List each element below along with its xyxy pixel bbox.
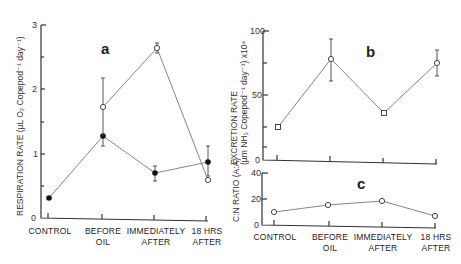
panel-b-y-label-1: EXCRETION RATE <box>229 91 239 165</box>
series-open-line <box>103 48 208 180</box>
point-filled-immediately-after <box>152 170 158 176</box>
c-cat-immediately: IMMEDIATELY <box>354 232 413 242</box>
point-filled-control <box>46 195 52 201</box>
b-y-tick-0: 0 <box>255 155 260 165</box>
c-cat-after: AFTER <box>369 243 398 253</box>
point-c-18hrs-after <box>432 213 437 218</box>
cat-after: AFTER <box>142 237 171 247</box>
c-cat-control: CONTROL <box>254 232 297 242</box>
c-cat-after-2: AFTER <box>422 243 451 253</box>
figure: 3 2 1 0 RESPIRATION RATE (µL O₂ Copepod⁻… <box>0 0 461 264</box>
series-cn-line <box>274 201 435 216</box>
panel-c: 40 20 0 C:N RATIO (A:A) c CONTROL BEFORE… <box>231 158 452 253</box>
series-excretion-line <box>278 59 437 127</box>
series-filled-line <box>49 136 208 198</box>
c-y-tick-40: 40 <box>251 168 261 178</box>
panel-b: 100 50 0 EXCRETION RATE (µm NH₃ Copepod⁻… <box>229 26 440 165</box>
y-tick-1: 1 <box>33 149 38 159</box>
c-cat-before: BEFORE <box>312 232 348 242</box>
cat-immediately: IMMEDIATELY <box>127 226 186 236</box>
b-y-tick-50: 50 <box>252 90 262 100</box>
point-b-18hrs-after <box>434 60 439 65</box>
panel-b-letter: b <box>366 43 375 60</box>
panel-a-axes <box>41 25 208 221</box>
point-c-immediately-after <box>379 198 384 203</box>
cat-control: CONTROL <box>29 226 72 236</box>
c-y-tick-20: 20 <box>251 194 261 204</box>
point-b-before-oil <box>328 56 333 61</box>
point-open-immediately-after <box>154 45 159 50</box>
cat-18hrs: 18 HRS <box>192 226 223 236</box>
panel-a-letter: a <box>101 40 110 57</box>
y-tick-3: 3 <box>32 20 37 30</box>
point-filled-18hrs-after <box>205 159 211 165</box>
panel-a: 3 2 1 0 RESPIRATION RATE (µL O₂ Copepod⁻… <box>15 20 223 247</box>
y-tick-2: 2 <box>32 84 37 94</box>
point-open-18hrs-after <box>205 177 210 182</box>
panel-c-letter: c <box>357 175 365 192</box>
panel-b-axes <box>263 31 437 164</box>
point-c-before-oil <box>325 202 330 207</box>
c-y-tick-0: 0 <box>254 220 259 230</box>
panel-c-y-label: C:N RATIO (A:A) <box>231 158 241 222</box>
point-open-before-oil <box>100 104 105 109</box>
panel-b-y-label-2: (µm NH₃ Copepod⁻¹ day⁻¹) x10⁴ <box>239 41 249 165</box>
point-b-immediately-after <box>382 111 387 116</box>
c-cat-18hrs: 18 HRS <box>421 232 452 242</box>
b-y-tick-100: 100 <box>250 26 265 36</box>
point-b-control <box>276 125 281 130</box>
c-cat-oil: OIL <box>323 243 337 253</box>
cat-oil: OIL <box>96 237 110 247</box>
point-c-control <box>271 209 276 214</box>
y-tick-0: 0 <box>31 213 36 223</box>
panel-c-axes <box>262 173 436 228</box>
cat-before: BEFORE <box>85 226 121 236</box>
cat-after-2: AFTER <box>193 237 222 247</box>
panel-a-y-label: RESPIRATION RATE (µL O₂ Copepod⁻¹ day⁻¹) <box>15 36 25 216</box>
